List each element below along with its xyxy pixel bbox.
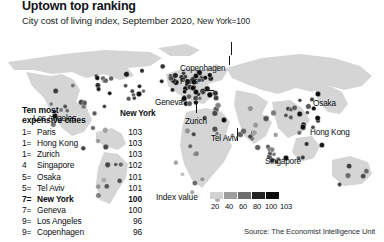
city-dot bbox=[273, 132, 278, 137]
city-dot bbox=[248, 106, 254, 112]
rank-position: 1= bbox=[22, 127, 37, 138]
highlighted-city-dot bbox=[221, 117, 226, 122]
map-label-paris: Paris bbox=[180, 78, 198, 86]
city-dot bbox=[96, 87, 101, 92]
rank-index-value: 100 bbox=[120, 194, 142, 205]
page-title: Uptown top ranking bbox=[22, 0, 136, 13]
ranking-row: 1=Paris103 bbox=[22, 127, 142, 138]
city-dot bbox=[304, 142, 309, 147]
ranking-heading-line2: expensive cities bbox=[22, 116, 142, 126]
city-dot bbox=[319, 142, 324, 147]
highlighted-city-dot bbox=[193, 89, 198, 94]
label-leader-line bbox=[237, 128, 238, 141]
city-dot bbox=[252, 130, 257, 135]
city-dot bbox=[124, 71, 129, 76]
subtitle-reference: New York=100 bbox=[197, 16, 250, 26]
map-label-tel-aviv: Tel Aviv bbox=[211, 135, 237, 143]
city-dot bbox=[271, 110, 277, 116]
rank-city-name: New York bbox=[37, 194, 120, 205]
map-label-hong-kong: Hong Kong bbox=[310, 129, 350, 137]
city-dot bbox=[187, 101, 192, 106]
legend-tick: 80 bbox=[250, 202, 264, 211]
city-dot bbox=[216, 103, 220, 107]
city-dot bbox=[124, 84, 128, 88]
rank-index-value: 103 bbox=[120, 127, 142, 138]
city-dot bbox=[361, 173, 366, 178]
city-dot bbox=[345, 173, 351, 179]
landmass-6 bbox=[226, 54, 372, 94]
ranking-row: 1=Zurich103 bbox=[22, 149, 142, 160]
city-dot bbox=[207, 92, 213, 98]
legend-swatch bbox=[266, 192, 279, 199]
rank-index-value: 96 bbox=[120, 227, 142, 238]
city-dot bbox=[126, 96, 131, 101]
city-dot bbox=[212, 126, 218, 132]
map-label-singapore: Singapore bbox=[265, 158, 301, 166]
city-dot bbox=[297, 130, 302, 135]
city-dot bbox=[305, 111, 309, 115]
rank-position: 5= bbox=[22, 183, 37, 194]
city-dot bbox=[188, 144, 193, 149]
city-dot bbox=[263, 116, 269, 122]
city-dot bbox=[95, 76, 100, 81]
city-dot bbox=[203, 75, 208, 80]
city-dot bbox=[284, 113, 288, 117]
city-dot bbox=[103, 78, 108, 83]
city-dot bbox=[255, 145, 261, 151]
label-leader-line bbox=[229, 56, 230, 65]
legend-swatches bbox=[210, 192, 279, 199]
label-leader-line bbox=[205, 90, 214, 91]
legend-title: Index value bbox=[156, 192, 198, 202]
ranking-row: 1=Hong Kong103 bbox=[22, 138, 142, 149]
legend-tick: 60 bbox=[236, 202, 250, 211]
city-dot bbox=[364, 169, 369, 174]
rank-city-name: Zurich bbox=[37, 149, 120, 160]
city-dot bbox=[213, 95, 218, 100]
city-dot bbox=[315, 115, 320, 120]
highlighted-city-dot bbox=[136, 91, 141, 96]
rank-city-name: Tel Aviv bbox=[37, 183, 120, 194]
infographic-root: Uptown top ranking City cost of living i… bbox=[0, 0, 384, 242]
rank-position: 9= bbox=[22, 216, 37, 227]
city-dot bbox=[173, 73, 179, 79]
city-dot bbox=[346, 163, 351, 168]
legend-swatch bbox=[210, 192, 223, 199]
highlighted-city-dot bbox=[315, 91, 320, 96]
rank-city-name: Osaka bbox=[37, 172, 120, 183]
city-dot bbox=[212, 110, 218, 116]
city-dot bbox=[298, 98, 302, 102]
rank-index-value: 103 bbox=[120, 138, 142, 149]
city-dot bbox=[213, 90, 219, 96]
legend-tick: 40 bbox=[222, 202, 236, 211]
city-dot bbox=[253, 122, 259, 128]
city-dot bbox=[71, 83, 75, 87]
city-dot bbox=[131, 93, 135, 97]
city-dot bbox=[180, 172, 184, 176]
legend-tick: 100 bbox=[264, 202, 278, 211]
map-label-geneva: Geneva bbox=[155, 99, 183, 107]
city-dot bbox=[297, 111, 302, 116]
rank-city-name: Geneva bbox=[37, 205, 120, 216]
rank-position: 7= bbox=[22, 194, 37, 205]
rank-position: 5= bbox=[22, 172, 37, 183]
ranking-row: 7=New York100 bbox=[22, 194, 142, 205]
rank-city-name: Singapore bbox=[37, 160, 120, 171]
landmass-12 bbox=[158, 44, 200, 56]
city-dot bbox=[306, 104, 311, 109]
ranking-row: 9=Los Angeles96 bbox=[22, 216, 142, 227]
subtitle-main: City cost of living index, September 202… bbox=[22, 15, 194, 26]
rank-city-name: Paris bbox=[37, 127, 120, 138]
map-label-zurich: Zurich bbox=[185, 118, 207, 126]
city-dot bbox=[185, 128, 191, 134]
rank-index-value: 101 bbox=[120, 172, 142, 183]
map-label-copenhagen: Copenhagen bbox=[180, 65, 225, 73]
label-leader-line bbox=[231, 42, 232, 55]
city-dot bbox=[108, 91, 112, 95]
rank-index-value: 103 bbox=[120, 149, 142, 160]
page-subtitle: City cost of living index, September 202… bbox=[22, 15, 250, 26]
rank-position: 4 bbox=[22, 160, 37, 171]
city-dot bbox=[207, 73, 212, 78]
city-dot bbox=[270, 147, 275, 152]
city-dot bbox=[142, 89, 146, 93]
rank-city-name: Hong Kong bbox=[37, 138, 120, 149]
